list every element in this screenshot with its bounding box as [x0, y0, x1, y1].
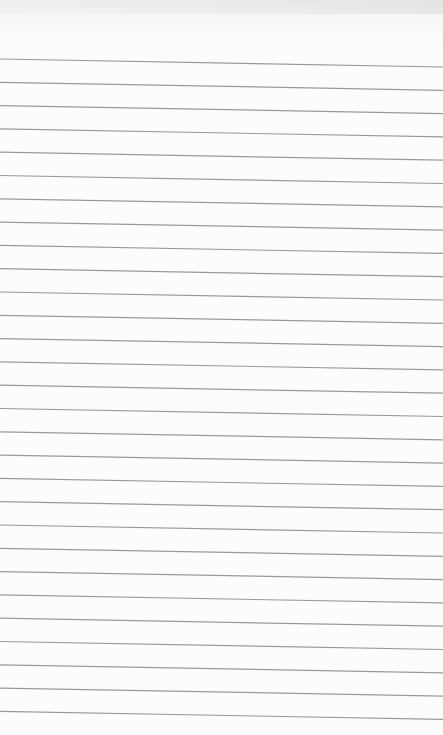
ruled-line: [0, 362, 443, 370]
ruled-line: [0, 642, 443, 650]
ruled-line: [0, 82, 443, 90]
ruled-line: [0, 525, 443, 533]
ruled-line: [0, 129, 443, 137]
ruled-line: [0, 595, 443, 603]
ruled-lines: [0, 0, 443, 735]
ruled-paper-sheet: [0, 0, 443, 735]
ruled-line: [0, 385, 443, 393]
ruled-line: [0, 339, 443, 347]
ruled-line: [0, 59, 443, 67]
ruled-line: [0, 269, 443, 277]
ruled-line: [0, 455, 443, 463]
ruled-line: [0, 572, 443, 580]
ruled-line: [0, 665, 443, 673]
ruled-line: [0, 152, 443, 160]
ruled-line: [0, 199, 443, 207]
ruled-line: [0, 478, 443, 486]
ruled-line: [0, 548, 443, 556]
ruled-line: [0, 502, 443, 510]
ruled-line: [0, 222, 443, 230]
ruled-line: [0, 409, 443, 417]
ruled-line: [0, 176, 443, 184]
ruled-line: [0, 245, 443, 253]
ruled-line: [0, 292, 443, 300]
ruled-line: [0, 688, 443, 696]
ruled-line: [0, 432, 443, 440]
ruled-line: [0, 618, 443, 626]
ruled-line: [0, 711, 443, 719]
ruled-line: [0, 106, 443, 114]
ruled-line: [0, 315, 443, 323]
